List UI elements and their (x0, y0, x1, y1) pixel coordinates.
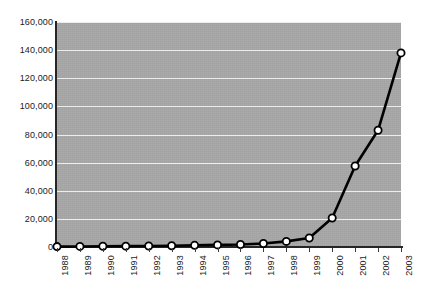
x-axis-tick-label: 1989 (84, 255, 93, 276)
x-axis-tick-mark (57, 248, 58, 252)
x-axis-tick-label: 2003 (405, 255, 414, 276)
x-axis-tick-mark (263, 248, 264, 252)
x-axis-tick-mark (240, 248, 241, 252)
x-axis-tick-label: 1993 (176, 255, 185, 276)
x-axis-tick-mark (80, 248, 81, 252)
x-axis-tick-mark (126, 248, 127, 252)
x-axis-tick-mark (401, 248, 402, 252)
x-axis-tick-label: 1991 (130, 255, 139, 276)
x-axis-tick-mark (378, 248, 379, 252)
x-axis-tick-label: 1990 (107, 255, 116, 276)
x-axis-tick-mark (149, 248, 150, 252)
x-axis-tick-label: 2002 (382, 255, 391, 276)
x-axis-label-group: 1988198919901991199219931994199519961997… (0, 0, 426, 296)
x-axis-tick-label: 1998 (290, 255, 299, 276)
x-axis-tick-mark (309, 248, 310, 252)
x-axis-tick-mark (286, 248, 287, 252)
x-axis-tick-label: 1988 (61, 255, 70, 276)
x-axis-tick-label: 2001 (359, 255, 368, 276)
x-axis-tick-label: 1992 (153, 255, 162, 276)
x-axis-tick-label: 1996 (244, 255, 253, 276)
x-axis-tick-mark (218, 248, 219, 252)
x-axis-tick-mark (332, 248, 333, 252)
x-axis-tick-mark (172, 248, 173, 252)
x-axis-tick-label: 1994 (199, 255, 208, 276)
x-axis-tick-label: 1999 (313, 255, 322, 276)
chart-container: 020,00040,00060,00080,000100,000120,0001… (0, 0, 426, 296)
x-axis-tick-label: 2000 (336, 255, 345, 276)
x-axis-tick-label: 1995 (222, 255, 231, 276)
x-axis-tick-mark (195, 248, 196, 252)
x-axis-tick-mark (103, 248, 104, 252)
x-axis-tick-mark (355, 248, 356, 252)
x-axis-tick-label: 1997 (267, 255, 276, 276)
